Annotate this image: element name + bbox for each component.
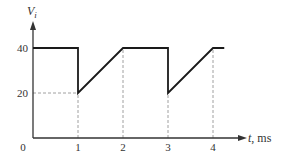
y-axis-label-sub: i: [34, 10, 37, 20]
y-tick-label: 20: [17, 87, 29, 99]
x-tick-label: 4: [210, 141, 216, 153]
voltage-waveform-chart: 01234 2040 Vi t, ms: [0, 0, 292, 162]
x-tick-label: 2: [120, 141, 126, 153]
y-tick-label: 40: [17, 42, 29, 54]
x-axis-arrow-icon: [238, 135, 247, 141]
x-tick-labels: 01234: [20, 141, 216, 153]
waveform-line: [33, 48, 224, 93]
x-tick-label: 1: [75, 141, 81, 153]
y-axis-label: Vi: [27, 4, 37, 20]
x-axis-label: t, ms: [248, 131, 272, 145]
y-tick-labels: 2040: [17, 42, 29, 99]
x-tick-label: 0: [20, 141, 26, 153]
axes: [30, 21, 247, 141]
x-axis-label-unit: , ms: [251, 131, 271, 145]
y-axis-arrow-icon: [30, 21, 36, 30]
dashed-guides: [33, 48, 213, 138]
x-tick-label: 3: [165, 141, 171, 153]
